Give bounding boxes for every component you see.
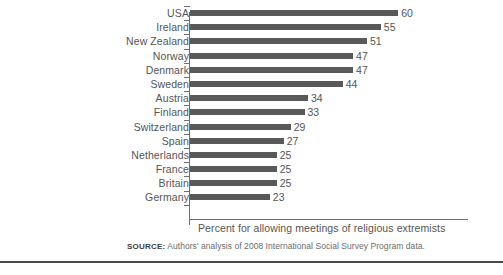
category-axis-tick [184, 34, 190, 35]
category-axis-tick [184, 63, 190, 64]
category-label: Britain [29, 176, 189, 190]
category-axis-tick [184, 148, 190, 149]
bar-track: 60 [190, 6, 503, 20]
bar-row: Denmark47 [0, 63, 503, 77]
bar-row: Spain27 [0, 134, 503, 148]
category-label: Norway [29, 49, 189, 63]
bar-track: 55 [190, 20, 503, 34]
category-axis-tick [184, 6, 190, 7]
source-label: SOURCE: [127, 242, 165, 251]
bar-value-label: 44 [346, 77, 358, 91]
category-axis-tick [184, 77, 190, 78]
chart-figure: USA60Ireland55New Zealand51Norway47Denma… [0, 0, 503, 275]
bar-row: Britain25 [0, 176, 503, 190]
bar-track: 47 [190, 63, 503, 77]
bar-value-label: 47 [356, 63, 368, 77]
bar [190, 10, 398, 16]
bar-value-label: 34 [311, 91, 323, 105]
bar-row: New Zealand51 [0, 34, 503, 48]
bar-rows-container: USA60Ireland55New Zealand51Norway47Denma… [0, 6, 503, 205]
bottom-divider-rule [0, 261, 503, 263]
category-label: Sweden [29, 77, 189, 91]
bar-row: Austria34 [0, 91, 503, 105]
bar [190, 81, 343, 87]
bar-track: 34 [190, 91, 503, 105]
bar-track: 47 [190, 49, 503, 63]
bar [190, 124, 291, 130]
bar-track: 25 [190, 176, 503, 190]
bar-track: 25 [190, 162, 503, 176]
bar-value-label: 25 [280, 176, 292, 190]
category-label: Ireland [29, 20, 189, 34]
bar-chart-plot-area: USA60Ireland55New Zealand51Norway47Denma… [0, 6, 503, 222]
bar [190, 24, 381, 30]
bar-row: Finland33 [0, 105, 503, 119]
bar-value-label: 29 [294, 120, 306, 134]
bar-row: Netherlands25 [0, 148, 503, 162]
bar-value-label: 33 [308, 105, 320, 119]
bar-row: Germany23 [0, 190, 503, 204]
source-note: SOURCE: Authors' analysis of 2008 Intern… [127, 241, 425, 251]
value-axis-line [189, 219, 468, 220]
category-label: Switzerland [29, 120, 189, 134]
bar-row: Norway47 [0, 49, 503, 63]
bar-value-label: 47 [356, 49, 368, 63]
category-axis-tick [184, 20, 190, 21]
category-label: USA [29, 6, 189, 20]
category-label: France [29, 162, 189, 176]
category-label: Austria [29, 91, 189, 105]
bar-row: France25 [0, 162, 503, 176]
bar-track: 51 [190, 34, 503, 48]
category-label: Germany [29, 190, 189, 204]
bar-track: 23 [190, 190, 503, 204]
bar-value-label: 23 [273, 190, 285, 204]
bar [190, 194, 270, 200]
bar-value-label: 27 [287, 134, 299, 148]
bar [190, 95, 308, 101]
bar-row: Switzerland29 [0, 120, 503, 134]
bar-track: 44 [190, 77, 503, 91]
bar-value-label: 55 [384, 20, 396, 34]
bar-row: Ireland55 [0, 20, 503, 34]
category-axis-tick [184, 91, 190, 92]
bar-value-label: 51 [370, 34, 382, 48]
category-axis-tick [184, 49, 190, 50]
bar-row: Sweden44 [0, 77, 503, 91]
bar [190, 38, 367, 44]
bar-track: 33 [190, 105, 503, 119]
bar-value-label: 25 [280, 148, 292, 162]
bar-row: USA60 [0, 6, 503, 20]
source-text: Authors' analysis of 2008 International … [167, 241, 425, 251]
category-axis-line [189, 12, 190, 225]
bar-track: 27 [190, 134, 503, 148]
category-axis-tick [184, 134, 190, 135]
x-axis-label: Percent for allowing meetings of religio… [198, 222, 446, 234]
bar-value-label: 60 [401, 6, 413, 20]
category-axis-tick [184, 205, 190, 206]
category-label: Denmark [29, 63, 189, 77]
category-label: New Zealand [29, 34, 189, 48]
category-axis-tick [184, 105, 190, 106]
bar [190, 67, 353, 73]
category-axis-tick [184, 162, 190, 163]
bar [190, 180, 277, 186]
category-axis-tick [184, 191, 190, 192]
bar-track: 29 [190, 120, 503, 134]
bar-track: 25 [190, 148, 503, 162]
category-axis-tick [184, 120, 190, 121]
category-label: Finland [29, 105, 189, 119]
bar [190, 152, 277, 158]
category-label: Spain [29, 134, 189, 148]
bar [190, 166, 277, 172]
bar [190, 138, 284, 144]
category-label: Netherlands [29, 148, 189, 162]
bar [190, 53, 353, 59]
bar [190, 109, 305, 115]
category-axis-tick [184, 176, 190, 177]
bar-value-label: 25 [280, 162, 292, 176]
